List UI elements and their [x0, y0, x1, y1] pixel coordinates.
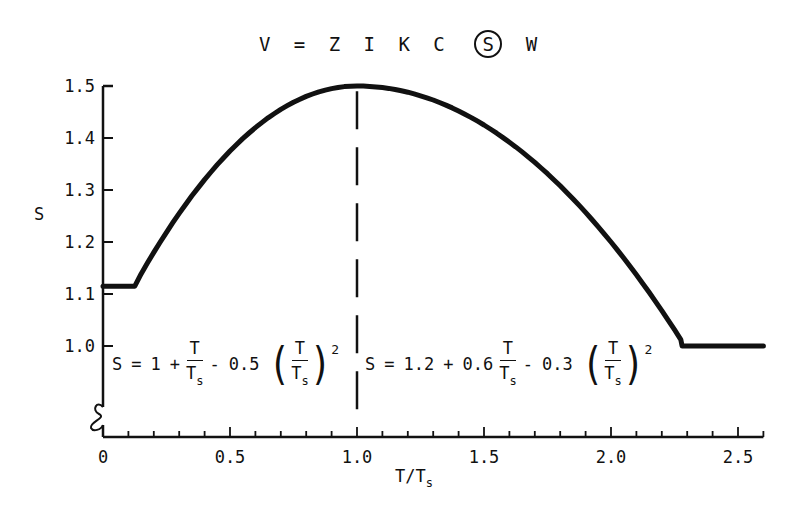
chart-canvas: 00.51.01.52.02.51.01.11.21.31.41.5 — [0, 0, 802, 523]
y-tick-label: 1.0 — [64, 336, 95, 356]
circled-s-symbol: S — [474, 30, 502, 58]
y-tick-label: 1.2 — [64, 232, 95, 252]
x-tick-label: 0.5 — [215, 447, 246, 467]
axis-break-icon — [91, 405, 103, 431]
x-tick-label: 1.0 — [342, 447, 373, 467]
x-axis-label: T/Ts — [395, 466, 433, 490]
x-tick-label: 0 — [98, 447, 108, 467]
left-equation: S = 1 + TTs - 0.5 ( TTs ) 2 — [112, 340, 339, 387]
y-tick-label: 1.1 — [64, 284, 95, 304]
y-tick-label: 1.5 — [64, 76, 95, 96]
title-formula-prefix: V = Z I K C — [259, 33, 451, 55]
y-tick-label: 1.4 — [64, 128, 95, 148]
data-series-s-curve — [103, 86, 763, 346]
x-tick-label: 1.5 — [469, 447, 500, 467]
right-equation: S = 1.2 + 0.6 TTs - 0.3 ( TTs ) 2 — [365, 340, 652, 387]
chart-title: V = Z I K C S W — [0, 30, 802, 58]
title-formula-suffix: W — [526, 33, 543, 55]
x-tick-label: 2.5 — [723, 447, 754, 467]
y-tick-label: 1.3 — [64, 180, 95, 200]
x-tick-label: 2.0 — [596, 447, 627, 467]
y-axis-label: S — [34, 204, 44, 224]
